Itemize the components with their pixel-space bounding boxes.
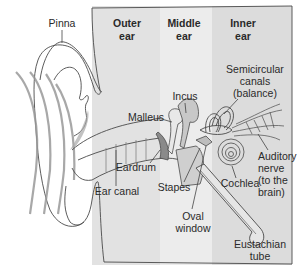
label-eustachian-line1: Eustachian <box>234 238 286 250</box>
earlobe <box>65 186 84 225</box>
outer-ear-header-line2: ear <box>119 30 135 42</box>
label-auditory-nerve-line2: nerve <box>258 162 284 174</box>
label-ear-canal: Ear canal <box>95 185 139 197</box>
middle-ear-header-line1: Middle <box>167 17 200 29</box>
middle-ear-header-line2: ear <box>176 30 192 42</box>
label-auditory-nerve-line4: brain) <box>258 186 285 198</box>
label-cochlea: Cochlea <box>221 177 260 189</box>
label-semicircular-line2: canals <box>240 75 270 87</box>
label-pinna: Pinna <box>49 17 76 29</box>
label-stapes: Stapes <box>158 181 191 193</box>
label-oval-window-line1: Oval <box>182 210 204 222</box>
outer-ear-header-line1: Outer <box>113 17 141 29</box>
label-eustachian-line2: tube <box>250 250 271 262</box>
inner-ear-header-line1: Inner <box>230 17 256 29</box>
inner-ear-header-line2: ear <box>235 30 251 42</box>
label-semicircular-line3: (balance) <box>233 87 277 99</box>
label-oval-window-line2: window <box>174 222 210 234</box>
label-auditory-nerve-line3: (to the <box>258 174 288 186</box>
label-auditory-nerve-line1: Auditory <box>258 150 297 162</box>
label-malleus: Malleus <box>128 111 164 123</box>
ear-anatomy-diagram: Outer ear Middle ear Inner ear Pinna Mal… <box>0 0 302 279</box>
label-incus: Incus <box>172 90 197 102</box>
label-semicircular-line1: Semicircular <box>226 63 284 75</box>
